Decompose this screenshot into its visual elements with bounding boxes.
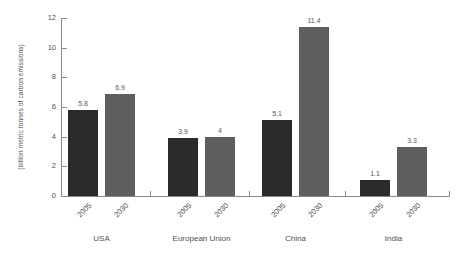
y-axis-tick-label: 4: [38, 133, 56, 141]
x-axis-year-label: 2005: [253, 201, 288, 236]
group-label-european-union: European Union: [152, 234, 252, 244]
bar-india-2005[interactable]: [360, 180, 390, 196]
bar-usa-2005[interactable]: [68, 110, 98, 196]
bar-value-label: 11.4: [299, 17, 329, 25]
y-axis-tick-label-text: 2: [38, 162, 56, 170]
bar-usa-2030[interactable]: [105, 94, 135, 196]
bar-china-2005[interactable]: [262, 120, 292, 196]
y-axis-tick-label: 8: [38, 73, 56, 81]
x-axis-year-label: 2005: [351, 201, 386, 236]
x-axis-year-label: 2005: [159, 201, 194, 236]
y-axis-tick-mark: [62, 166, 67, 167]
bar-value-label: 3.9: [168, 128, 198, 136]
y-axis-tick-label-text: 4: [38, 133, 56, 141]
x-axis-year-label: 2030: [388, 201, 423, 236]
y-axis-tick-label-text: 8: [38, 73, 56, 81]
y-axis-tick-label-text: 12: [38, 14, 56, 22]
bar-european-union-2005[interactable]: [168, 138, 198, 196]
bar-value-label: 5.8: [68, 100, 98, 108]
y-axis-tick-mark: [62, 77, 67, 78]
y-axis-title: (billion metric tonnes of carbon emissio…: [14, 18, 28, 196]
y-axis-tick-label-text: 10: [38, 44, 56, 52]
bar-india-2030[interactable]: [397, 147, 427, 196]
y-axis-tick-mark: [62, 107, 67, 108]
x-axis-year-label: 2030: [290, 201, 325, 236]
y-axis-tick-label: 2: [38, 162, 56, 170]
y-axis-tick-mark: [62, 196, 67, 197]
group-label-usa: USA: [52, 234, 152, 244]
x-axis-tick-mark: [449, 191, 450, 196]
group-label-india: India: [344, 234, 444, 244]
y-axis-tick-mark: [62, 18, 67, 19]
bar-value-label: 5.1: [262, 110, 292, 118]
y-axis-tick-label: 0: [38, 192, 56, 200]
bar-value-label: 4: [205, 127, 235, 135]
x-axis-tick-mark: [150, 191, 151, 196]
x-axis-year-label: 2030: [196, 201, 231, 236]
bar-value-label: 3.3: [397, 137, 427, 145]
x-axis-line: [61, 196, 450, 197]
x-axis-year-label: 2030: [96, 201, 131, 236]
bar-chart-figure: (billion metric tonnes of carbon emissio…: [0, 0, 464, 257]
bar-china-2030[interactable]: [299, 27, 329, 196]
y-axis-tick-mark: [62, 48, 67, 49]
x-axis-tick-mark: [249, 191, 250, 196]
group-label-china: China: [246, 234, 346, 244]
bar-value-label: 1.1: [360, 170, 390, 178]
y-axis-tick-mark: [62, 137, 67, 138]
bar-value-label: 6.9: [105, 84, 135, 92]
y-axis-tick-label-text: 6: [38, 103, 56, 111]
x-axis-tick-mark: [345, 191, 346, 196]
x-axis-tick-mark: [61, 191, 62, 196]
y-axis-tick-label-text: 0: [38, 192, 56, 200]
y-axis-tick-label: 12: [38, 14, 56, 22]
bar-european-union-2030[interactable]: [205, 137, 235, 196]
y-axis-tick-label: 10: [38, 44, 56, 52]
x-axis-year-label: 2005: [59, 201, 94, 236]
y-axis-tick-label: 6: [38, 103, 56, 111]
